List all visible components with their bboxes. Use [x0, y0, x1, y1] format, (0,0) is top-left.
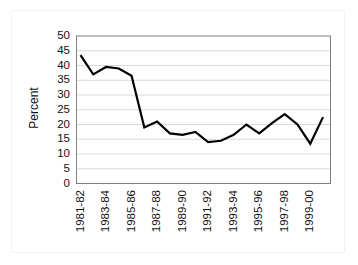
y-tick-label: 45: [57, 44, 70, 56]
y-tick-label: 15: [57, 132, 70, 144]
y-axis-tick-labels: 50454035302520151050: [57, 29, 70, 189]
y-tick-label: 30: [57, 88, 70, 100]
series-percent-line: [81, 55, 324, 144]
y-tick-label: 25: [57, 103, 70, 115]
y-tick-label: 50: [57, 29, 70, 41]
y-tick-label: 40: [57, 59, 70, 71]
x-tick-label: 1991-92: [201, 190, 213, 232]
y-tick-label: 10: [57, 147, 70, 159]
x-tick-label: 1989-90: [176, 190, 188, 232]
y-axis-title: Percent: [27, 87, 41, 129]
x-tick-label: 1995-96: [252, 190, 264, 232]
x-tick-label: 1987-88: [150, 190, 162, 232]
x-tick-label: 1997-98: [278, 190, 290, 232]
x-tick-label: 1985-86: [125, 190, 137, 232]
chart-figure: 50454035302520151050 1981-821983-841985-…: [0, 0, 358, 265]
y-tick-label: 0: [64, 177, 70, 189]
x-tick-label: 1993-94: [227, 189, 239, 232]
line-chart: 50454035302520151050 1981-821983-841985-…: [0, 0, 358, 265]
x-tick-label: 1999-00: [303, 190, 315, 232]
data-series-line: [81, 55, 324, 144]
y-tick-label: 5: [64, 162, 70, 174]
x-axis-tick-labels: 1981-821983-841985-861987-881989-901991-…: [74, 189, 316, 232]
x-tick-label: 1983-84: [99, 189, 111, 232]
x-tick-label: 1981-82: [74, 190, 86, 232]
y-tick-label: 35: [57, 73, 70, 85]
y-tick-label: 20: [57, 118, 70, 130]
